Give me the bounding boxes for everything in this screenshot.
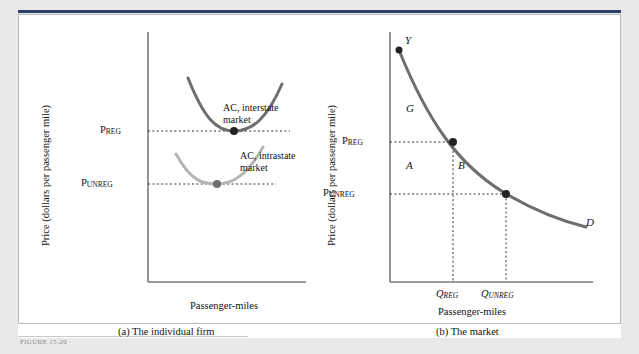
label-point-y: Y (405, 34, 411, 46)
label-ac-interstate-line1: AC, interstate (223, 102, 279, 114)
label-ac-intrastate: AC, intrastate market (240, 150, 296, 173)
point-reg (449, 138, 457, 146)
label-area-g: G (406, 102, 414, 114)
y-axis-label-a: Price (dollars per passenger mile) (40, 105, 51, 246)
panel-b-caption: (b) The market (436, 326, 499, 337)
point-min-intrastate (213, 180, 221, 188)
label-ac-interstate: AC, interstate market (223, 102, 279, 125)
curve-demand (399, 50, 586, 227)
tick-p-unreg-b-sub: UNREG (329, 190, 355, 199)
tick-p-reg-b: PREG (342, 135, 363, 147)
panel-a-caption: (a) The individual firm (118, 326, 214, 337)
tick-q-unreg-b-sub: UNREG (489, 291, 514, 300)
label-point-d: D (586, 216, 594, 228)
tick-p-unreg-a: PUNREG (81, 177, 113, 189)
tick-q-reg-b-main: Q (436, 288, 444, 299)
page-margin-bottom (0, 338, 639, 354)
point-unreg (502, 190, 510, 198)
tick-q-reg-b-sub: REG (444, 291, 459, 300)
tick-p-unreg-b: PUNREG (323, 187, 355, 199)
tick-p-unreg-a-sub: UNREG (87, 180, 113, 189)
label-ac-intrastate-line1: AC, intrastate (240, 150, 296, 162)
page-margin-left (0, 0, 18, 354)
point-y (396, 47, 403, 54)
x-axis-label-b: Passenger-miles (438, 306, 506, 317)
x-axis-label-a: Passenger-miles (190, 300, 258, 311)
tick-q-reg-b: QREG (436, 288, 458, 300)
tick-p-reg-b-sub: REG (348, 138, 363, 147)
label-ac-interstate-line2: market (223, 114, 279, 126)
tick-q-unreg-b-main: Q (481, 288, 489, 299)
tick-p-reg-a-sub: REG (106, 127, 121, 136)
figure-page: FIGURE 15-20 Price (dollars per passenge… (0, 0, 639, 354)
label-area-b: B (458, 159, 465, 171)
panel-market: Price (dollars per passenger mile) Passe… (318, 14, 621, 324)
panel-individual-firm: Price (dollars per passenger mile) Passe… (18, 14, 318, 324)
label-ac-intrastate-line2: market (240, 162, 296, 174)
label-area-a: A (406, 159, 413, 171)
tick-q-unreg-b: QUNREG (481, 288, 514, 300)
y-axis-label-b: Price (dollars per passenger mile) (326, 105, 337, 246)
point-min-interstate (230, 127, 238, 135)
figure-caption: FIGURE 15-20 (20, 338, 67, 346)
header-rule (18, 10, 621, 13)
tick-p-reg-a: PREG (100, 124, 121, 136)
page-margin-right (621, 0, 639, 354)
panel-b-graphic (318, 14, 621, 324)
